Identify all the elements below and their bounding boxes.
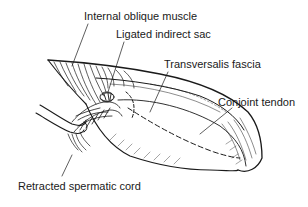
ligated-sac	[100, 92, 114, 102]
label-ligated-indirect-sac: Ligated indirect sac	[116, 28, 211, 40]
muscle-hatching	[54, 62, 134, 104]
label-retracted-spermatic-cord: Retracted spermatic cord	[18, 180, 141, 192]
label-transversalis-fascia: Transversalis fascia	[164, 58, 261, 70]
lower-hatching	[110, 134, 242, 164]
dashed-ring	[126, 92, 134, 118]
label-conjoint-tendon: Conjoint tendon	[218, 96, 295, 108]
internal-oblique-outline	[48, 60, 262, 171]
anatomy-diagram: Internal oblique muscle Ligated indirect…	[0, 0, 308, 207]
spermatic-cord	[72, 102, 122, 132]
leader-conjoint	[200, 108, 232, 134]
lower-edge	[86, 104, 238, 171]
cord-frayed-end	[68, 132, 90, 152]
leader-spermatic-cord	[62, 155, 72, 176]
leader-lines	[62, 24, 232, 176]
conjoint-tendon-striations	[222, 118, 256, 160]
leader-internal-oblique	[72, 24, 88, 66]
transversalis-fascia-edge	[118, 100, 246, 166]
retractor-strap-top	[40, 105, 86, 125]
label-internal-oblique-muscle: Internal oblique muscle	[84, 10, 197, 22]
